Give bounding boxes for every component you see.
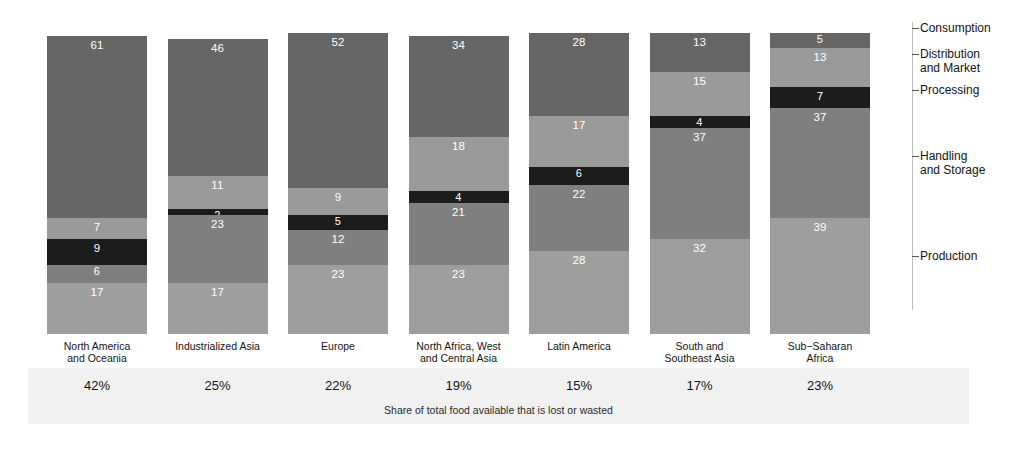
legend-item-label: Distribution and Market (920, 48, 980, 75)
bar-segment-value: 17 (572, 116, 585, 132)
bar-segment-value: 11 (211, 176, 223, 192)
stacked-bar: 52951223 (288, 33, 388, 334)
bar-segment-value: 23 (211, 215, 224, 231)
bar-segment-value: 6 (94, 265, 100, 277)
category-label: Sub−Saharan Africa (755, 340, 885, 364)
bar-segment-value: 7 (817, 87, 824, 103)
stacked-bar: 51373739 (770, 33, 870, 334)
bar-segment-value: 46 (211, 39, 224, 55)
bar-segment: 61 (47, 36, 147, 218)
bar-segment-value: 61 (90, 36, 103, 52)
legend-tick-icon (912, 90, 919, 91)
bar-segment: 28 (529, 33, 629, 116)
bar-segment: 11 (168, 176, 268, 209)
bar-segment-value: 23 (331, 265, 344, 281)
bar-segment: 17 (529, 116, 629, 167)
legend-item-2[interactable]: Processing (912, 84, 979, 98)
bar-segment-value: 13 (813, 48, 826, 64)
bar-segment-value: 18 (452, 137, 465, 153)
category-label: Europe (273, 340, 403, 352)
category-label: North America and Oceania (32, 340, 162, 364)
legend-item-label: Processing (920, 84, 979, 98)
legend-item-label: Production (920, 250, 977, 264)
stacked-bar: 281762228 (529, 33, 629, 334)
bar-segment: 9 (288, 188, 388, 215)
bar-segment-value: 4 (455, 191, 461, 203)
bar-segment-value: 22 (572, 185, 585, 201)
legend-tick-icon (912, 28, 919, 29)
bar-segment-value: 17 (90, 283, 103, 299)
bar-segment-value: 9 (94, 239, 101, 255)
share-value: 15% (514, 378, 644, 393)
bar-segment-value: 28 (572, 33, 585, 49)
bar-segment: 15 (650, 72, 750, 117)
share-value: 22% (273, 378, 403, 393)
stacked-bar: 341842123 (409, 36, 509, 334)
bar-segment-value: 37 (813, 108, 826, 124)
bar-segment: 4 (650, 116, 750, 128)
bar-segment: 52 (288, 33, 388, 188)
share-value: 23% (755, 378, 885, 393)
bar-segment: 17 (168, 283, 268, 334)
bar-segment-value: 39 (813, 218, 826, 234)
bar-segment: 23 (288, 265, 388, 334)
bar-segment: 39 (770, 218, 870, 334)
bar-segment: 4 (409, 191, 509, 203)
bar-segment: 22 (529, 185, 629, 251)
bar-segment: 5 (288, 215, 388, 230)
legend-tick-icon (912, 54, 919, 55)
category-label: South and Southeast Asia (635, 340, 765, 364)
bar-segment: 13 (770, 48, 870, 87)
bar-segment-value: 32 (693, 239, 706, 255)
legend-item-0[interactable]: Consumption (912, 22, 991, 36)
share-value: 25% (153, 378, 283, 393)
bar-segment: 21 (409, 203, 509, 266)
stacked-bar-chart: 6179617461122317529512233418421232817622… (0, 0, 1027, 454)
bar-segment-value: 28 (572, 251, 585, 267)
share-strip: 42%25%22%19%15%17%23% Share of total foo… (28, 368, 969, 424)
bar-segment-value: 17 (211, 283, 224, 299)
share-value: 42% (32, 378, 162, 393)
bar-segment-value: 7 (94, 218, 101, 234)
bar-segment-value: 15 (693, 72, 706, 88)
bar-segment: 5 (770, 33, 870, 48)
bar-segment-value: 6 (576, 167, 582, 179)
bar-segment: 7 (770, 87, 870, 108)
bar-segment: 23 (409, 265, 509, 334)
bar-segment-value: 37 (693, 128, 706, 144)
bar-segment: 34 (409, 36, 509, 137)
bar-segment: 12 (288, 230, 388, 266)
category-label: Latin America (514, 340, 644, 352)
stacked-bar: 6179617 (47, 36, 147, 334)
bar-segment: 17 (47, 283, 147, 334)
bar-segment: 13 (650, 33, 750, 72)
bar-segment-value: 13 (693, 33, 706, 49)
bar-segment: 6 (47, 265, 147, 283)
bar-segment-value: 5 (335, 215, 341, 227)
bar-segment: 46 (168, 39, 268, 176)
share-value: 19% (394, 378, 524, 393)
bar-segment: 37 (770, 108, 870, 218)
legend-item-label: Consumption (920, 22, 991, 36)
legend-item-3[interactable]: Handling and Storage (912, 150, 985, 177)
bar-segment: 7 (47, 218, 147, 239)
bar-segment: 37 (650, 128, 750, 238)
category-label: North Africa, West and Central Asia (394, 340, 524, 364)
bar-segment-value: 21 (452, 203, 465, 219)
share-value: 17% (635, 378, 765, 393)
plot-area: 6179617461122317529512233418421232817622… (0, 0, 1027, 334)
chart-caption: Share of total food available that is lo… (28, 404, 969, 416)
bar-segment: 9 (47, 239, 147, 266)
bar-segment: 18 (409, 137, 509, 191)
legend-tick-icon (912, 256, 919, 257)
legend-item-4[interactable]: Production (912, 250, 977, 264)
stacked-bar: 461122317 (168, 39, 268, 334)
bar-segment-value: 5 (817, 33, 823, 45)
bar-segment-value: 23 (452, 265, 465, 281)
legend-item-1[interactable]: Distribution and Market (912, 48, 980, 75)
bar-segment-value: 9 (335, 188, 342, 204)
stacked-bar: 131543732 (650, 33, 750, 334)
bar-segment: 32 (650, 239, 750, 334)
bar-segment-value: 4 (696, 116, 702, 128)
bar-segment-value: 12 (331, 230, 344, 246)
